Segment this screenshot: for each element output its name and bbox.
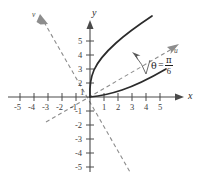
x-tick-label-1: 1: [102, 103, 106, 112]
y-tick-label-neg3: -3: [75, 135, 82, 144]
plot-canvas: [0, 0, 200, 185]
x-tick-label-neg3: -3: [42, 103, 49, 112]
y-tick-label-1: 1: [80, 88, 84, 97]
x-tick-label-neg5: -5: [14, 103, 21, 112]
curve-upper-branch: [90, 16, 152, 97]
rotated-axes-diagram: -5 -4 -3 -2 -1 1 2 3 4 5 5 4 3 2 1 -1 -2…: [0, 0, 200, 185]
angle-leader-line: [146, 60, 150, 74]
angle-annotation: θ = π 6: [151, 56, 173, 75]
y-tick-label-neg4: -4: [75, 149, 82, 158]
x-tick-label-5: 5: [158, 103, 162, 112]
theta-symbol: θ: [151, 61, 157, 71]
x-tick-label-4: 4: [144, 103, 148, 112]
y-tick-label-neg5: -5: [75, 163, 82, 172]
y-tick-label-3: 3: [78, 65, 82, 74]
v-axis-label: v: [32, 11, 35, 19]
v-axis-arrowhead: [37, 14, 49, 25]
u-axis-label: u: [174, 47, 178, 55]
x-axis-label: x: [188, 91, 192, 101]
x-tick-label-2: 2: [116, 103, 120, 112]
y-tick-label-neg2: -2: [75, 121, 82, 130]
y-axis-label: y: [92, 8, 96, 18]
y-tick-label-5: 5: [78, 37, 82, 46]
fraction-denominator: 6: [166, 66, 172, 75]
pi-over-six-fraction: π 6: [165, 56, 173, 75]
x-tick-label-neg2: -2: [56, 103, 63, 112]
equals-symbol: =: [158, 61, 163, 71]
fraction-numerator: π: [165, 56, 173, 65]
y-tick-label-4: 4: [78, 51, 82, 60]
x-tick-label-neg4: -4: [28, 103, 35, 112]
y-tick-label-neg1: -1: [75, 107, 82, 116]
x-tick-label-3: 3: [130, 103, 134, 112]
